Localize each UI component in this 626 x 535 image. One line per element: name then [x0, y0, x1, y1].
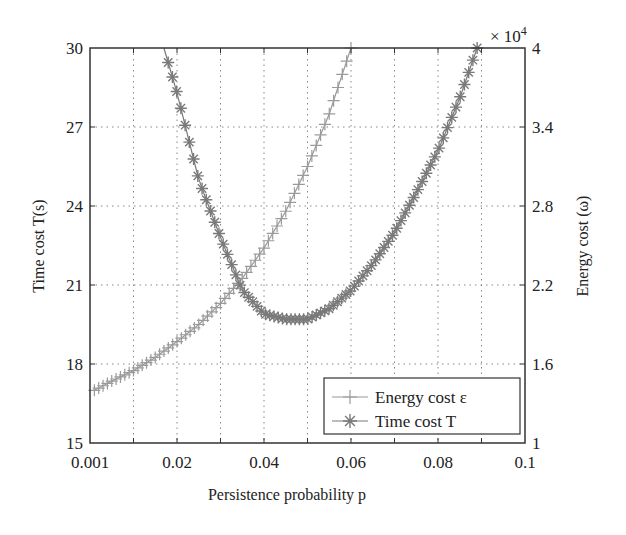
x-tick-label: 0.08	[423, 453, 453, 472]
time-cost-series	[162, 42, 483, 325]
x-tick-label: 0.06	[336, 453, 366, 472]
y-tick-label: 21	[66, 276, 83, 295]
energy-cost-series	[88, 42, 357, 396]
y-axis-right-title: Energy cost (ω)	[574, 196, 592, 297]
y-right-tick-label: 3.4	[532, 118, 554, 137]
y-tick-label: 30	[66, 39, 83, 58]
y-axis-title: Time cost T(s)	[30, 199, 48, 292]
right-axis-multiplier: × 104	[490, 24, 527, 46]
y-right-tick-label: 1	[532, 434, 541, 453]
x-tick-label: 0.02	[162, 453, 192, 472]
legend-label: Time cost T	[375, 412, 457, 431]
y-right-tick-label: 1.6	[532, 355, 553, 374]
x-tick-label: 0.04	[249, 453, 279, 472]
x-tick-label: 0.1	[514, 453, 535, 472]
data-series	[88, 42, 483, 396]
y-right-tick-label: 2.8	[532, 197, 553, 216]
legend: Energy cost εTime cost T	[324, 378, 520, 434]
y-tick-label: 18	[66, 355, 83, 374]
x-axis-title: Persistence probability p	[208, 486, 366, 504]
legend-label: Energy cost ε	[375, 388, 467, 407]
y-tick-label: 15	[66, 434, 83, 453]
y-tick-label: 24	[66, 197, 84, 216]
y-tick-label: 27	[66, 118, 84, 137]
y-right-tick-label: 2.2	[532, 276, 553, 295]
chart: 0.0010.020.040.060.080.115182124273011.6…	[0, 0, 626, 535]
x-tick-label: 0.001	[71, 453, 109, 472]
y-right-tick-label: 4	[532, 39, 541, 58]
